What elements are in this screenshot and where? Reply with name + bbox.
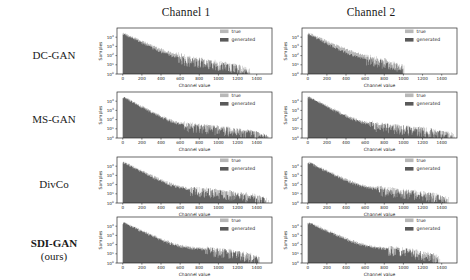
x-tick-label: 1400 [436, 140, 447, 145]
y-tick-label: 100 [292, 71, 299, 77]
x-axis-title: Channel value [364, 147, 396, 152]
histogram-panel-4-2: 0200400600800100012001400Channel value10… [280, 213, 462, 277]
x-tick-label: 600 [176, 140, 184, 145]
x-tick-label: 200 [323, 265, 331, 270]
x-tick-label: 400 [157, 265, 165, 270]
legend-label-true: true [232, 158, 242, 163]
y-tick-label: 104 [107, 34, 114, 40]
x-tick-label: 800 [380, 140, 388, 145]
x-tick-label: 1000 [213, 140, 224, 145]
x-tick-label: 400 [342, 265, 350, 270]
y-axis-title: Samples [98, 105, 103, 124]
figure-panel-grid: Channel 1 Channel 2 DC-GAN MS-GAN DivCo … [0, 0, 470, 280]
x-tick-label: 1400 [251, 205, 262, 210]
y-axis-title: Samples [283, 41, 288, 60]
x-tick-label: 400 [342, 76, 350, 81]
y-tick-label: 102 [292, 116, 299, 122]
x-tick-label: 1200 [232, 140, 243, 145]
x-tick-label: 1000 [213, 205, 224, 210]
x-tick-label: 200 [323, 140, 331, 145]
x-tick-label: 200 [138, 265, 146, 270]
x-axis-title: Channel value [179, 272, 211, 277]
y-tick-label: 104 [292, 34, 299, 40]
x-tick-label: 0 [121, 205, 124, 210]
x-tick-label: 1400 [436, 205, 447, 210]
x-tick-label: 0 [121, 265, 124, 270]
legend-swatch-generated [220, 227, 229, 231]
x-tick-label: 800 [195, 205, 203, 210]
legend-label-generated: generated [417, 226, 441, 231]
legend-label-true: true [232, 93, 242, 98]
x-tick-label: 1200 [232, 265, 243, 270]
column-title-channel-1: Channel 1 [126, 6, 246, 18]
y-tick-label: 103 [292, 107, 299, 113]
legend-label-true: true [417, 158, 427, 163]
y-tick-label: 103 [292, 172, 299, 178]
legend-swatch-true [405, 219, 414, 223]
y-tick-label: 100 [292, 260, 299, 266]
x-tick-label: 1200 [417, 205, 428, 210]
x-tick-label: 600 [176, 205, 184, 210]
histogram-panel-2-1: 0200400600800100012001400Channel value10… [95, 88, 277, 152]
y-tick-label: 100 [292, 135, 299, 141]
y-tick-label: 100 [292, 200, 299, 206]
y-tick-label: 104 [292, 163, 299, 169]
y-tick-label: 104 [292, 98, 299, 104]
legend-swatch-generated [405, 38, 414, 42]
x-tick-label: 400 [342, 140, 350, 145]
x-tick-label: 1200 [417, 140, 428, 145]
y-axis-title: Samples [283, 230, 288, 249]
y-tick-label: 102 [292, 241, 299, 247]
x-tick-label: 800 [380, 76, 388, 81]
legend-label-true: true [417, 218, 427, 223]
x-tick-label: 800 [195, 140, 203, 145]
x-tick-label: 1400 [436, 76, 447, 81]
y-axis-title: Samples [98, 230, 103, 249]
y-tick-label: 101 [292, 191, 299, 197]
x-tick-label: 1000 [398, 140, 409, 145]
x-tick-label: 1400 [436, 265, 447, 270]
legend-swatch-true [220, 219, 229, 223]
legend-swatch-generated [220, 102, 229, 106]
histogram-panel-3-1: 0200400600800100012001400Channel value10… [95, 153, 277, 217]
y-tick-label: 102 [292, 181, 299, 187]
y-tick-label: 102 [107, 181, 114, 187]
y-tick-label: 101 [107, 62, 114, 68]
legend-label-generated: generated [232, 37, 256, 42]
x-tick-label: 1000 [213, 265, 224, 270]
y-tick-label: 101 [292, 126, 299, 132]
x-tick-label: 0 [306, 140, 309, 145]
x-tick-label: 800 [195, 265, 203, 270]
y-tick-label: 100 [107, 135, 114, 141]
legend-label-generated: generated [232, 101, 256, 106]
histogram-panel-1-2: 0200400600800100012001400Channel value10… [280, 24, 462, 88]
x-tick-label: 400 [342, 205, 350, 210]
y-axis-title: Samples [283, 105, 288, 124]
legend-label-generated: generated [232, 166, 256, 171]
y-tick-label: 103 [292, 43, 299, 49]
y-tick-label: 104 [107, 223, 114, 229]
legend-label-generated: generated [417, 37, 441, 42]
column-title-channel-2: Channel 2 [311, 6, 431, 18]
y-tick-label: 104 [292, 223, 299, 229]
x-tick-label: 0 [121, 140, 124, 145]
legend-swatch-generated [405, 167, 414, 171]
x-tick-label: 0 [306, 205, 309, 210]
legend-swatch-true [220, 94, 229, 98]
y-axis-title: Samples [283, 170, 288, 189]
histogram-panel-3-2: 0200400600800100012001400Channel value10… [280, 153, 462, 217]
y-tick-label: 103 [107, 43, 114, 49]
legend-label-true: true [232, 29, 242, 34]
y-tick-label: 102 [107, 116, 114, 122]
y-tick-label: 102 [107, 52, 114, 58]
legend-swatch-generated [220, 38, 229, 42]
histogram-panel-1-1: 0200400600800100012001400Channel value10… [95, 24, 277, 88]
legend-label-true: true [232, 218, 242, 223]
legend-swatch-generated [405, 227, 414, 231]
x-tick-label: 600 [361, 205, 369, 210]
x-tick-label: 1200 [232, 76, 243, 81]
x-tick-label: 600 [176, 76, 184, 81]
x-tick-label: 200 [138, 205, 146, 210]
x-tick-label: 1200 [417, 265, 428, 270]
x-tick-label: 1200 [232, 205, 243, 210]
